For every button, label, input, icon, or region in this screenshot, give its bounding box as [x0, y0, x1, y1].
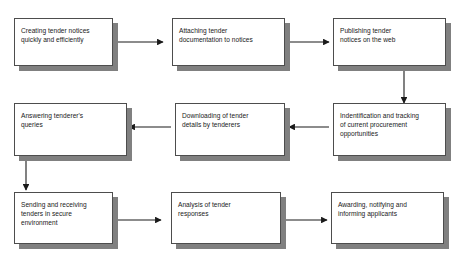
process-node-5[interactable]: Downloading of tender details by tendere…: [175, 103, 285, 156]
flowchart-diagram: Creating tender notices quickly and effi…: [0, 0, 473, 266]
node-label: Indentification and tracking of current …: [340, 111, 441, 139]
node-label: Publishing tender notices on the web: [340, 26, 441, 44]
process-node-7[interactable]: Sending and receiving tenders in secure …: [14, 192, 113, 244]
node-label: Awarding, notifying and informing applic…: [338, 200, 439, 218]
process-node-9[interactable]: Awarding, notifying and informing applic…: [331, 192, 444, 244]
process-node-3[interactable]: Publishing tender notices on the web: [333, 18, 446, 66]
node-label: Answering tenderer's queries: [21, 111, 122, 129]
process-node-8[interactable]: Analysis of tender responses: [171, 192, 281, 244]
process-node-4[interactable]: Answering tenderer's queries: [14, 103, 127, 156]
process-node-6[interactable]: Indentification and tracking of current …: [333, 103, 446, 156]
node-label: Sending and receiving tenders in secure …: [21, 200, 108, 228]
node-label: Analysis of tender responses: [178, 200, 276, 218]
node-label: Attaching tender documentation to notice…: [179, 26, 280, 44]
process-node-1[interactable]: Creating tender notices quickly and effi…: [14, 18, 113, 66]
node-label: Downloading of tender details by tendere…: [182, 111, 280, 129]
node-label: Creating tender notices quickly and effi…: [21, 26, 108, 44]
process-node-2[interactable]: Attaching tender documentation to notice…: [172, 18, 285, 66]
